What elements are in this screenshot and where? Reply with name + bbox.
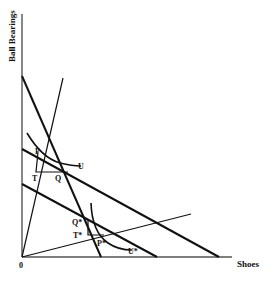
point-u-label: U	[78, 162, 84, 171]
point-u-star-label: U*	[128, 247, 138, 256]
point-t-star-label: T*	[73, 231, 82, 240]
x-axis-label: Shoes	[237, 259, 260, 269]
upper-budget-line	[22, 149, 219, 257]
steep-budget-line	[22, 76, 101, 257]
economics-diagram: Ball Bearings Shoes 0 P T Q U Q* T* P* U…	[0, 0, 275, 283]
point-p-star-label: P*	[97, 239, 106, 248]
point-q-star-label: Q*	[72, 218, 82, 227]
point-q-label: Q	[55, 174, 61, 183]
origin-label: 0	[19, 261, 23, 270]
y-axis-label: Ball Bearings	[7, 10, 17, 62]
point-t-label: T	[32, 174, 38, 183]
point-p-label: P	[35, 147, 40, 156]
shallow-ray-line	[22, 214, 191, 257]
